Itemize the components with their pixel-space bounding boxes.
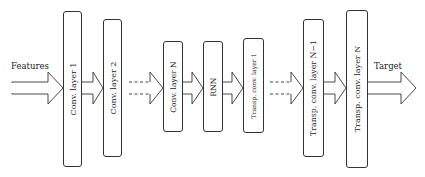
arrow-conv1-conv2 [81, 72, 103, 104]
layer-label: Transp. conv. layer 1 [250, 53, 258, 118]
layer-label: Transp. conv. layer N [353, 46, 362, 132]
layer-tconvN1: Transp. conv. layer N−1 [304, 20, 324, 157]
output-arrow [367, 72, 416, 104]
dashed-arrow-tconv1-tconvN1 [270, 72, 303, 104]
layer-label: Conv. layer N [169, 61, 178, 113]
arrow-rnn-tconv1 [222, 72, 243, 104]
target-label: Target [374, 61, 403, 71]
arrow-convN-rnn [182, 72, 203, 104]
network-diagram: Features Target Conv. layer 1 [0, 0, 425, 177]
layer-convN: Conv. layer N [164, 42, 183, 132]
features-label: Features [11, 61, 49, 71]
dashed-arrow-conv2-convN [129, 72, 163, 104]
arrow-tconvN1-tconvN [323, 72, 346, 104]
input-arrow [11, 72, 63, 104]
layer-tconv1: Transp. conv. layer 1 [244, 39, 264, 133]
layer-label: Transp. conv. layer N−1 [309, 40, 318, 136]
layer-conv1: Conv. layer 1 [64, 12, 82, 167]
layer-tconvN: Transp. conv. layer N [347, 11, 368, 168]
layer-rnn: RNN [204, 42, 223, 132]
layer-conv2: Conv. layer 2 [104, 20, 122, 157]
layer-label: RNN [209, 77, 218, 96]
layer-label: Conv. layer 1 [69, 63, 78, 116]
layer-label: Conv. layer 2 [109, 62, 118, 115]
